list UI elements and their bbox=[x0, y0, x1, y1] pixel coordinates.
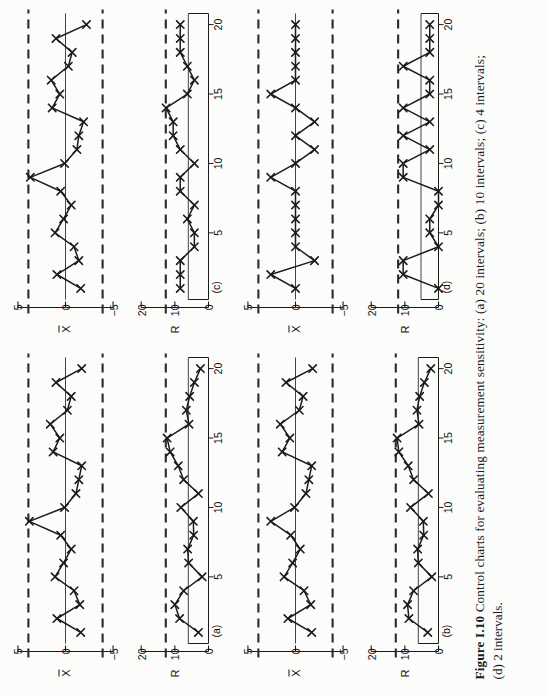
figure-number: Figure I.10 bbox=[471, 615, 486, 679]
r-ytick-label: 0 bbox=[202, 648, 214, 654]
x-axis-tick-label: 20 bbox=[441, 362, 453, 374]
panel-c-r-chart: 20100R5101520 (c) bbox=[134, 13, 208, 299]
panel-d-xbar-plot: 50−5X bbox=[236, 13, 354, 299]
data-point-marker bbox=[307, 600, 314, 607]
r-ytick-label: 10 bbox=[398, 648, 410, 660]
data-point-marker bbox=[290, 503, 297, 510]
data-point-marker bbox=[57, 531, 64, 538]
data-point-marker bbox=[424, 489, 431, 496]
data-point-marker bbox=[46, 420, 53, 427]
data-point-marker bbox=[77, 284, 84, 291]
xbar-axis-name: X bbox=[289, 325, 301, 332]
r-ytick-label: 20 bbox=[135, 304, 147, 316]
x-axis-tick-label: 20 bbox=[441, 18, 453, 30]
xbar-ytick-label: 0 bbox=[59, 648, 71, 654]
xbar-ytick-label: 0 bbox=[289, 648, 301, 654]
data-point-marker bbox=[276, 420, 283, 427]
r-axis-name: R bbox=[168, 325, 180, 333]
panel-d-xbar-chart: 50−5X bbox=[236, 13, 354, 299]
data-point-marker bbox=[404, 462, 411, 469]
data-point-marker bbox=[183, 62, 190, 69]
x-axis-tick-label: 10 bbox=[441, 501, 453, 513]
data-point-marker bbox=[198, 573, 205, 580]
x-axis-tick-label: 15 bbox=[211, 88, 223, 100]
data-point-marker bbox=[49, 448, 56, 455]
x-axis-tick-label: 5 bbox=[211, 229, 223, 235]
r-axis-name: R bbox=[168, 669, 180, 677]
panel-a-r-chart: 20100R5101520 (a) bbox=[134, 357, 208, 643]
rotated-figure-canvas: 50−5X 20100R5101520 (a) 50−5X 20100R5101… bbox=[0, 0, 547, 695]
data-point-marker bbox=[60, 503, 67, 510]
data-point-marker bbox=[63, 406, 70, 413]
xbar-ytick-label: −5 bbox=[337, 648, 349, 660]
xbar-ytick-label: −5 bbox=[107, 648, 119, 660]
figure-caption-line-1: Control charts for evaluating measuremen… bbox=[471, 55, 486, 612]
r-ytick-label: 20 bbox=[135, 648, 147, 660]
panel-d-r-plot: 20100R5101520 bbox=[364, 13, 438, 299]
control-chart-grid: 50−5X 20100R5101520 (a) 50−5X 20100R5101… bbox=[4, 7, 459, 687]
r-ytick-label: 10 bbox=[168, 304, 180, 316]
data-point-marker bbox=[300, 587, 307, 594]
panel-d: 50−5X 20100R5101520 (d) bbox=[236, 7, 458, 343]
data-point-marker bbox=[183, 90, 190, 97]
panel-a: 50−5X 20100R5101520 (a) bbox=[6, 351, 228, 687]
x-axis-tick-label: 15 bbox=[211, 432, 223, 444]
data-point-marker bbox=[194, 628, 201, 635]
data-point-marker bbox=[47, 76, 54, 83]
x-axis-tick-label: 5 bbox=[211, 573, 223, 579]
data-point-marker bbox=[413, 406, 420, 413]
data-point-marker bbox=[406, 503, 413, 510]
data-point-marker bbox=[82, 20, 89, 27]
panel-b-label: (b) bbox=[439, 624, 451, 637]
data-point-marker bbox=[73, 145, 80, 152]
data-point-marker bbox=[183, 215, 190, 222]
data-point-marker bbox=[307, 628, 314, 635]
xbar-ytick-label: 0 bbox=[59, 304, 71, 310]
data-point-marker bbox=[278, 448, 285, 455]
r-ytick-label: 20 bbox=[365, 304, 377, 316]
data-point-marker bbox=[310, 145, 317, 152]
data-point-marker bbox=[310, 256, 317, 263]
data-point-marker bbox=[176, 145, 183, 152]
data-point-marker bbox=[308, 364, 315, 371]
data-point-marker bbox=[57, 187, 64, 194]
data-point-marker bbox=[302, 489, 309, 496]
panel-a-xbar-chart: 50−5X bbox=[6, 357, 124, 643]
xbar-axis-name: X bbox=[59, 325, 71, 332]
data-point-marker bbox=[428, 573, 435, 580]
r-ytick-label: 10 bbox=[398, 304, 410, 316]
panel-a-label: (a) bbox=[209, 624, 221, 637]
figure-page: 50−5X 20100R5101520 (a) 50−5X 20100R5101… bbox=[0, 0, 547, 695]
xbar-ytick-label: 0 bbox=[289, 304, 301, 310]
xbar-ytick-label: 5 bbox=[11, 648, 23, 654]
x-axis-tick-label: 15 bbox=[441, 88, 453, 100]
data-point-marker bbox=[60, 159, 67, 166]
data-point-marker bbox=[310, 118, 317, 125]
data-point-marker bbox=[194, 489, 201, 496]
data-point-marker bbox=[70, 587, 77, 594]
r-axis-name: R bbox=[398, 669, 410, 677]
figure-caption-line-2: (d) 2 intervals. bbox=[488, 39, 506, 679]
data-point-marker bbox=[287, 531, 294, 538]
x-axis-tick-label: 20 bbox=[211, 18, 223, 30]
data-point-marker bbox=[48, 104, 55, 111]
xbar-axis-name: X bbox=[289, 669, 301, 676]
data-point-marker bbox=[426, 118, 433, 125]
data-point-marker bbox=[295, 406, 302, 413]
x-axis-tick-label: 5 bbox=[441, 573, 453, 579]
data-point-marker bbox=[51, 229, 58, 236]
panel-c-r-plot: 20100R5101520 bbox=[134, 13, 208, 299]
r-ytick-label: 10 bbox=[168, 648, 180, 660]
xbar-ytick-label: −5 bbox=[107, 304, 119, 316]
data-point-marker bbox=[280, 573, 287, 580]
data-point-marker bbox=[171, 600, 178, 607]
x-axis-tick-label: 10 bbox=[211, 157, 223, 169]
xbar-axis-name: X bbox=[59, 669, 71, 676]
panel-c-label: (c) bbox=[209, 281, 221, 293]
x-axis-tick-label: 5 bbox=[441, 229, 453, 235]
panel-b-xbar-plot: 50−5X bbox=[236, 357, 354, 643]
data-point-marker bbox=[70, 243, 77, 250]
panel-c-xbar-plot: 50−5X bbox=[6, 13, 124, 299]
data-point-marker bbox=[426, 145, 433, 152]
data-point-marker bbox=[77, 628, 84, 635]
